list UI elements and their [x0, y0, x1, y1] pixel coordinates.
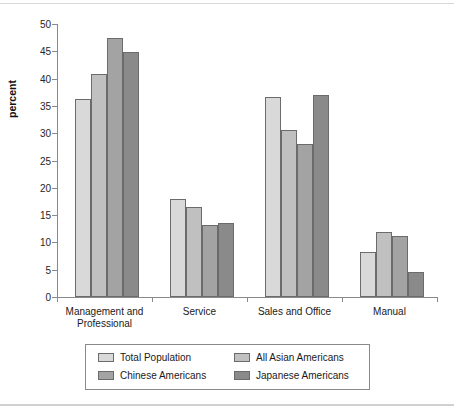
bar[interactable] [170, 199, 186, 297]
bar[interactable] [202, 225, 218, 297]
bar[interactable] [313, 95, 329, 297]
x-axis-tick [342, 297, 343, 302]
bar-group [360, 24, 424, 297]
legend-label: All Asian Americans [256, 352, 344, 363]
legend-item[interactable]: All Asian Americans [234, 352, 344, 363]
y-axis-tick [52, 188, 57, 189]
bar-group [170, 24, 234, 297]
figure-top-rule [0, 3, 454, 4]
chart-figure: percent 05101520253035404550 Management … [0, 0, 454, 410]
legend-label: Chinese Americans [120, 370, 206, 381]
y-axis-tick-label: 40 [40, 73, 51, 84]
y-axis-tick-label: 25 [40, 155, 51, 166]
y-axis-tick [52, 133, 57, 134]
legend-item[interactable]: Total Population [98, 352, 191, 363]
bar[interactable] [281, 130, 297, 297]
x-axis-tick [437, 297, 438, 302]
y-axis-tick [52, 79, 57, 80]
y-axis-tick-label: 10 [40, 237, 51, 248]
y-axis-line [57, 24, 58, 298]
bar[interactable] [376, 232, 392, 297]
y-axis-tick [52, 270, 57, 271]
bar[interactable] [218, 223, 234, 297]
legend-label: Total Population [120, 352, 191, 363]
bar[interactable] [75, 99, 91, 297]
y-axis-tick [52, 242, 57, 243]
bar-group [75, 24, 139, 297]
bar[interactable] [297, 144, 313, 297]
y-axis-tick-label: 0 [45, 292, 51, 303]
bar[interactable] [360, 252, 376, 297]
y-axis-tick-label: 45 [40, 46, 51, 57]
y-axis-tick [52, 161, 57, 162]
legend-label: Japanese Americans [256, 370, 349, 381]
legend-swatch [98, 371, 114, 380]
bar[interactable] [107, 38, 123, 297]
y-axis-tick [52, 106, 57, 107]
y-axis-tick-label: 5 [45, 264, 51, 275]
legend-item[interactable]: Chinese Americans [98, 370, 206, 381]
legend-swatch [98, 353, 114, 362]
x-axis-tick [247, 297, 248, 302]
bar[interactable] [408, 272, 424, 297]
y-axis-tick [52, 215, 57, 216]
plot-area: Management and ProfessionalServiceSales … [57, 24, 437, 297]
x-axis-tick [57, 297, 58, 302]
x-axis-category-label: Manual [342, 306, 437, 318]
bar[interactable] [186, 207, 202, 297]
bar[interactable] [123, 52, 139, 297]
bar[interactable] [392, 236, 408, 297]
y-axis-tick-labels: 05101520253035404550 [20, 24, 51, 298]
bar[interactable] [91, 74, 107, 297]
x-axis-tick [152, 297, 153, 302]
y-axis-tick-label: 15 [40, 210, 51, 221]
y-axis-tick-label: 30 [40, 128, 51, 139]
chart-legend: Total PopulationAll Asian AmericansChine… [85, 344, 370, 390]
y-axis-title: percent [6, 80, 18, 118]
legend-item[interactable]: Japanese Americans [234, 370, 349, 381]
x-axis-category-label: Sales and Office [247, 306, 342, 318]
legend-swatch [234, 353, 250, 362]
bar[interactable] [265, 97, 281, 297]
x-axis-category-label: Management and Professional [57, 306, 152, 330]
x-axis-category-label: Service [152, 306, 247, 318]
y-axis-tick-label: 20 [40, 182, 51, 193]
y-axis-tick-label: 50 [40, 19, 51, 30]
y-axis-tick [52, 51, 57, 52]
bar-group [265, 24, 329, 297]
figure-bottom-rule [0, 404, 454, 406]
y-axis-tick [52, 24, 57, 25]
legend-swatch [234, 371, 250, 380]
y-axis-tick-label: 35 [40, 100, 51, 111]
